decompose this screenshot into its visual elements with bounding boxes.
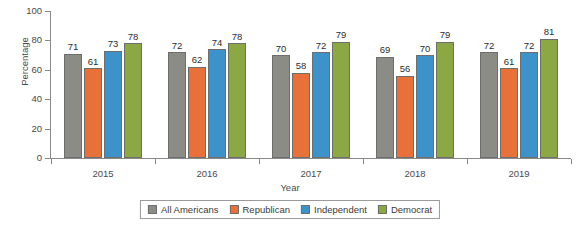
- bar-item[interactable]: 71: [64, 11, 82, 158]
- x-tick-mark: [155, 159, 156, 164]
- bar-group: 70587279: [259, 11, 363, 158]
- bar-item[interactable]: 61: [84, 11, 102, 158]
- x-axis-title: Year: [0, 182, 580, 193]
- bar[interactable]: [332, 42, 350, 158]
- bar[interactable]: [208, 49, 226, 158]
- bar[interactable]: [396, 76, 414, 158]
- y-tick-label: 0: [18, 153, 42, 163]
- bar[interactable]: [84, 68, 102, 158]
- legend-label: Republican: [242, 204, 290, 215]
- bar-item[interactable]: 79: [436, 11, 454, 158]
- legend-item[interactable]: All Americans: [148, 204, 219, 215]
- bar[interactable]: [416, 55, 434, 158]
- bar[interactable]: [436, 42, 454, 158]
- bar-value-label: 78: [118, 32, 148, 42]
- bar[interactable]: [520, 52, 538, 158]
- bar-chart: Percentage 020406080100 7161737872627478…: [0, 0, 580, 228]
- bar-item[interactable]: 70: [272, 11, 290, 158]
- bar-item[interactable]: 78: [228, 11, 246, 158]
- bar-group-bars: 72617281: [467, 11, 571, 158]
- legend-label: Democrat: [391, 204, 432, 215]
- chart-legend: All AmericansRepublicanIndependentDemocr…: [140, 200, 440, 219]
- bar-item[interactable]: 72: [480, 11, 498, 158]
- bar-group-bars: 71617378: [51, 11, 155, 158]
- y-axis-tick-labels: 020406080100: [16, 0, 42, 228]
- bar[interactable]: [228, 43, 246, 158]
- bar-group: 72617281: [467, 11, 571, 158]
- bar-item[interactable]: 69: [376, 11, 394, 158]
- bar[interactable]: [124, 43, 142, 158]
- bar[interactable]: [104, 51, 122, 158]
- x-tick-mark: [467, 159, 468, 164]
- bar-item[interactable]: 62: [188, 11, 206, 158]
- x-tick-mark: [51, 159, 52, 164]
- x-tick-mark: [571, 159, 572, 164]
- y-tick-label: 60: [18, 65, 42, 75]
- y-tick-label: 80: [18, 35, 42, 45]
- bar-item[interactable]: 56: [396, 11, 414, 158]
- bar-item[interactable]: 79: [332, 11, 350, 158]
- bar-item[interactable]: 58: [292, 11, 310, 158]
- bar-value-label: 81: [534, 27, 564, 37]
- plot-area: 7161737872627478705872796956707972617281: [51, 11, 571, 158]
- legend-swatch-icon: [378, 205, 387, 214]
- bar[interactable]: [168, 52, 186, 158]
- legend-label: All Americans: [161, 204, 219, 215]
- bar-item[interactable]: 81: [540, 11, 558, 158]
- x-axis-line: [50, 158, 571, 159]
- bar[interactable]: [500, 68, 518, 158]
- bar-group: 72627478: [155, 11, 259, 158]
- bar[interactable]: [540, 39, 558, 158]
- bar-item[interactable]: 78: [124, 11, 142, 158]
- legend-item[interactable]: Independent: [301, 204, 367, 215]
- legend-item[interactable]: Republican: [229, 204, 290, 215]
- bar-item[interactable]: 72: [168, 11, 186, 158]
- legend-swatch-icon: [148, 205, 157, 214]
- x-tick-label: 2019: [479, 168, 559, 179]
- x-tick-label: 2015: [63, 168, 143, 179]
- bar-value-label: 78: [222, 32, 252, 42]
- y-tick-label: 20: [18, 124, 42, 134]
- bar-group-bars: 72627478: [155, 11, 259, 158]
- legend-item[interactable]: Democrat: [378, 204, 432, 215]
- legend-swatch-icon: [301, 205, 310, 214]
- bar-group-bars: 69567079: [363, 11, 467, 158]
- legend-label: Independent: [314, 204, 367, 215]
- x-tick-label: 2016: [167, 168, 247, 179]
- legend-swatch-icon: [229, 205, 238, 214]
- bar-value-label: 79: [430, 30, 460, 40]
- bar-value-label: 79: [326, 30, 356, 40]
- bar-group-bars: 70587279: [259, 11, 363, 158]
- bar-item[interactable]: 61: [500, 11, 518, 158]
- x-tick-mark: [363, 159, 364, 164]
- bar[interactable]: [292, 73, 310, 158]
- x-tick-mark: [259, 159, 260, 164]
- bar-group: 71617378: [51, 11, 155, 158]
- x-tick-label: 2017: [271, 168, 351, 179]
- bar-group: 69567079: [363, 11, 467, 158]
- bar[interactable]: [64, 54, 82, 158]
- y-tick-label: 40: [18, 94, 42, 104]
- bar[interactable]: [312, 52, 330, 158]
- bar[interactable]: [480, 52, 498, 158]
- y-tick-label: 100: [18, 6, 42, 16]
- x-tick-label: 2018: [375, 168, 455, 179]
- bar[interactable]: [188, 67, 206, 158]
